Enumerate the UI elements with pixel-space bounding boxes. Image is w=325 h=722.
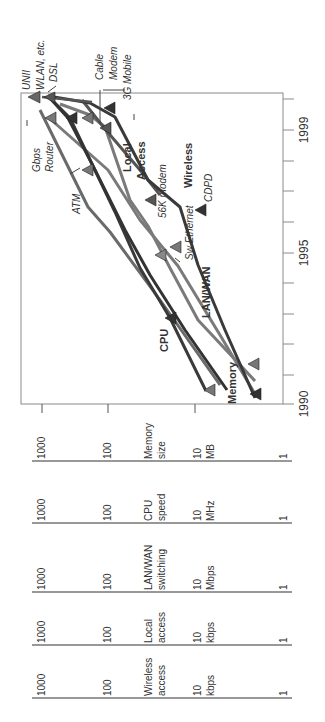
svg-text:CPU: CPU (143, 500, 154, 521)
ann-cable-1: Cable (94, 53, 105, 80)
ann-cdpd: CDPD (203, 174, 214, 202)
year-label-1995: 1995 (297, 239, 311, 266)
ann-atm: ATM (71, 193, 82, 215)
svg-text:1000: 1000 (36, 436, 47, 459)
svg-text:1000: 1000 (36, 673, 47, 696)
svg-text:kbps: kbps (205, 675, 216, 696)
ann-sweth: Sw Ethernet (184, 204, 195, 260)
ann-wlan: WLAN, etc. (35, 39, 46, 90)
svg-text:1: 1 (278, 690, 289, 696)
year-label-1999: 1999 (297, 116, 311, 143)
series-label-cpu: CPU (158, 329, 170, 352)
series-label-memory: Memory (226, 361, 238, 404)
markers (28, 91, 261, 400)
svg-text:access: access (156, 612, 167, 643)
svg-text:100: 100 (102, 573, 113, 590)
ann-56k: 56K modem (157, 164, 168, 218)
svg-text:10: 10 (192, 578, 203, 590)
svg-text:100: 100 (102, 626, 113, 643)
axis-local: 1000 100 Local access 10 kbps 1 (36, 612, 289, 643)
axis-memory: 1000 100 Memory size 10 MB 1 (36, 423, 289, 459)
series-label-lanwan: LAN/WAN (200, 267, 212, 318)
svg-text:Wireless: Wireless (143, 658, 154, 696)
series-lanwan-line (48, 117, 255, 394)
series-label-wireless: Wireless (182, 143, 194, 188)
svg-text:100: 100 (102, 504, 113, 521)
ann-router: Router (44, 141, 55, 172)
svg-text:kbps: kbps (205, 622, 216, 643)
svg-text:100: 100 (102, 442, 113, 459)
svg-text:10: 10 (192, 447, 203, 459)
svg-text:MB: MB (205, 444, 216, 459)
svg-text:Mbps: Mbps (205, 566, 216, 590)
ann-gbps: Gbps (31, 148, 42, 172)
svg-text:1: 1 (278, 637, 289, 643)
axis-wireless: 1000 100 Wireless access 10 kbps 1 (36, 658, 289, 696)
svg-text:100: 100 (102, 679, 113, 696)
plot-frame (21, 93, 283, 404)
svg-text:Memory: Memory (143, 423, 154, 459)
svg-text:1: 1 (278, 584, 289, 590)
ann-dsl: DSL (48, 63, 59, 82)
svg-text:10: 10 (192, 684, 203, 696)
chart: 1999 1995 1990 (0, 0, 325, 722)
series-label-local-1: Local (121, 143, 133, 172)
year-axis (283, 99, 294, 404)
value-ticks (42, 404, 195, 413)
svg-text:LAN/WAN: LAN/WAN (143, 545, 154, 590)
svg-text:1000: 1000 (36, 620, 47, 643)
svg-text:switching: switching (156, 549, 167, 590)
svg-text:size: size (156, 441, 167, 459)
svg-text:1000: 1000 (36, 567, 47, 590)
ann-3g: 3G Mobile (122, 54, 133, 100)
svg-text:10: 10 (192, 509, 203, 521)
ann-cable-2: Modem (108, 47, 119, 80)
svg-text:MHz: MHz (205, 500, 216, 521)
svg-text:1: 1 (278, 515, 289, 521)
svg-text:1: 1 (278, 453, 289, 459)
axis-cpu: 1000 100 CPU speed 10 MHz 1 (36, 494, 289, 521)
ann-unii: UNII (21, 70, 32, 90)
axis-lanwan: 1000 100 LAN/WAN switching 10 Mbps 1 (36, 545, 289, 590)
svg-text:speed: speed (156, 494, 167, 521)
series-label-local-2: Access (135, 141, 147, 180)
year-label-1990: 1990 (297, 390, 311, 417)
svg-text:10: 10 (192, 631, 203, 643)
svg-text:1000: 1000 (36, 498, 47, 521)
svg-text:access: access (156, 665, 167, 696)
svg-text:Local: Local (143, 619, 154, 643)
